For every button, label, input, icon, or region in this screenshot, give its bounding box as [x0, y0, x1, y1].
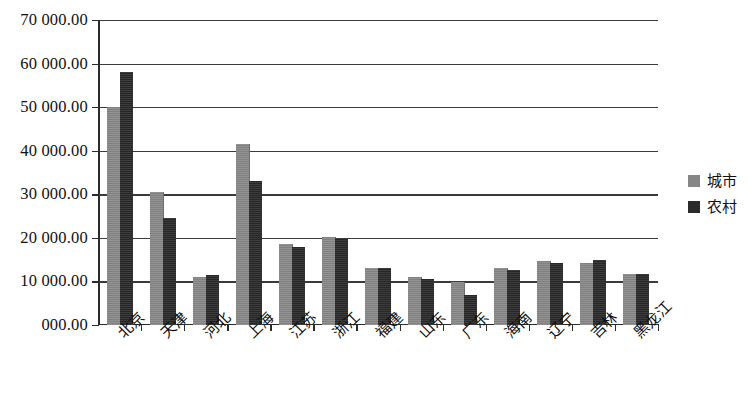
bar-urban — [365, 268, 379, 326]
bar-urban — [580, 263, 594, 325]
bar-urban — [494, 268, 508, 325]
bar-rural — [163, 218, 176, 325]
bar-urban — [451, 282, 465, 325]
y-axis-tick-label: 40 000.00 — [20, 142, 88, 159]
bar-rural — [120, 72, 133, 325]
x-axis-labels: 北京天津河北上海江苏浙江福建山东广东海南辽宁吉林黑龙江 — [98, 325, 658, 394]
y-axis-labels: 70 000.0060 000.0050 000.0040 000.0030 0… — [0, 0, 94, 394]
bar-urban — [279, 244, 293, 325]
y-axis-tick-label: 10 000.00 — [20, 273, 88, 290]
legend-label-rural: 农村 — [707, 200, 737, 215]
bar-rural — [249, 181, 262, 325]
bar-urban — [623, 274, 637, 325]
chart-legend: 城市 农村 — [688, 168, 756, 220]
legend-item-rural: 农村 — [688, 194, 756, 220]
bar-urban — [537, 261, 551, 325]
bar-urban — [408, 277, 422, 325]
plot-area — [98, 20, 658, 325]
legend-label-urban: 城市 — [707, 174, 737, 189]
y-axis-tick-label: 70 000.00 — [20, 12, 88, 29]
y-axis-tick-label: 000.00 — [41, 317, 88, 334]
bar-urban — [193, 277, 207, 325]
legend-item-urban: 城市 — [688, 168, 756, 194]
legend-swatch-rural-icon — [688, 201, 700, 213]
y-axis-tick-label: 30 000.00 — [20, 186, 88, 203]
bar-chart: 70 000.0060 000.0050 000.0040 000.0030 0… — [0, 0, 756, 394]
y-axis-tick-label: 50 000.00 — [20, 99, 88, 116]
bar-urban — [150, 192, 164, 325]
bars-layer — [98, 20, 658, 325]
bar-urban — [322, 237, 336, 325]
y-axis-tick-label: 60 000.00 — [20, 55, 88, 72]
y-axis-tick-label: 20 000.00 — [20, 230, 88, 247]
bar-urban — [107, 107, 121, 325]
bar-urban — [236, 144, 250, 325]
legend-swatch-urban-icon — [688, 175, 700, 187]
